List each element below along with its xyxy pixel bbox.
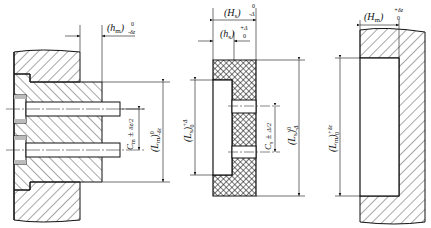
cavity-block-view: (Hm) +δz 0 (Lm)+δz0 bbox=[327, 7, 425, 224]
Hs-dim-label: (Hs) bbox=[224, 7, 241, 20]
Ls-outer-dim-label: (Ls)0-Δ bbox=[286, 125, 299, 145]
hs-tol-lower: 0 bbox=[243, 33, 246, 39]
mold-assembly-view: (hm) 0 -δz Cm ± δz/2 (Lm)0-δz bbox=[6, 21, 170, 222]
Hs-tol-upper: 0 bbox=[252, 3, 255, 9]
insert-hole-upper bbox=[232, 100, 256, 113]
engineering-drawing: (hm) 0 -δz Cm ± δz/2 (Lm)0-δz (Hs) 0 -Δ bbox=[0, 0, 431, 228]
Hs-tol-lower: -Δ bbox=[249, 11, 255, 17]
cm-dim-label: Cm ± δz/2 bbox=[125, 118, 136, 150]
cs-dim-label: Cs ± Δ/2 bbox=[263, 122, 274, 150]
Lm-right-dim-label: (Lm)+δz0 bbox=[327, 124, 340, 152]
Hm-tol-upper: +δz bbox=[394, 7, 404, 13]
Hm-dim-label: (Hm) bbox=[364, 11, 384, 24]
insert-view: (Hs) 0 -Δ (hs) +Δ 0 (Ls)+Δ0 Cs ± Δ/2 (Ls… bbox=[182, 3, 305, 196]
hm-tol-upper: 0 bbox=[131, 21, 134, 27]
Hm-tol-lower: 0 bbox=[397, 15, 400, 21]
insert-body bbox=[14, 74, 102, 190]
hm-dim-label: (hm) bbox=[107, 22, 125, 35]
hs-dim-label: (hs) bbox=[220, 28, 235, 41]
lm-left-dim-label: (Lm)0-δz bbox=[149, 128, 162, 152]
cavity-recess bbox=[360, 58, 399, 196]
hs-tol-upper: +Δ bbox=[240, 25, 248, 31]
insert-slot bbox=[213, 80, 232, 175]
hm-tol-lower: -δz bbox=[128, 29, 136, 35]
Ls-inner-dim-label: (Ls)+Δ0 bbox=[182, 119, 195, 142]
